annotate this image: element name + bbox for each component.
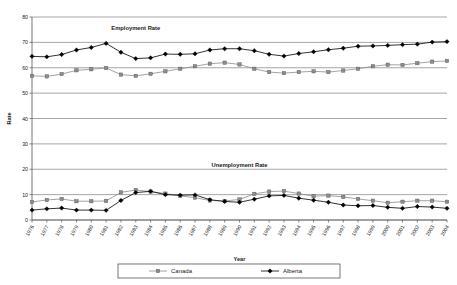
data-point-canada-1992 xyxy=(267,190,270,193)
y-axis-title: Rate xyxy=(6,112,12,124)
data-point-alberta-1983 xyxy=(134,56,138,60)
data-point-alberta-1998 xyxy=(356,204,360,208)
data-point-canada-2004 xyxy=(445,59,448,62)
data-point-alberta-1978 xyxy=(59,52,63,56)
data-point-alberta-1985 xyxy=(163,52,167,56)
y-tick-label-80: 80 xyxy=(22,14,28,20)
data-point-alberta-2001 xyxy=(400,42,404,46)
data-point-alberta-1996 xyxy=(326,200,330,204)
data-point-alberta-2004 xyxy=(445,206,449,210)
data-point-alberta-1980 xyxy=(89,208,93,212)
x-tick-label-1999: 1999 xyxy=(365,224,376,237)
data-point-canada-1993 xyxy=(282,71,285,74)
data-point-alberta-1984 xyxy=(148,56,152,60)
annotation-employment-rate: Employment Rate xyxy=(111,25,161,31)
data-point-canada-1977 xyxy=(45,75,48,78)
data-point-alberta-2000 xyxy=(386,43,390,47)
data-point-alberta-2002 xyxy=(415,204,419,208)
data-point-canada-1996 xyxy=(327,194,330,197)
x-tick-label-2000: 2000 xyxy=(380,224,391,237)
data-point-alberta-1999 xyxy=(371,203,375,207)
y-tick-label-70: 70 xyxy=(22,39,28,45)
data-point-alberta-2003 xyxy=(430,205,434,209)
data-point-alberta-2003 xyxy=(430,40,434,44)
data-point-canada-1986 xyxy=(179,67,182,70)
data-point-alberta-1979 xyxy=(74,48,78,52)
x-tick-label-1984: 1984 xyxy=(143,224,154,237)
data-point-canada-1988 xyxy=(208,62,211,65)
data-point-canada-2001 xyxy=(401,200,404,203)
y-tick-label-10: 10 xyxy=(22,192,28,198)
x-tick-label-2001: 2001 xyxy=(395,224,406,237)
data-point-alberta-1976 xyxy=(30,54,34,58)
legend-marker-canada xyxy=(156,269,159,272)
x-tick-label-1987: 1987 xyxy=(187,224,198,237)
data-point-canada-1980 xyxy=(90,200,93,203)
data-point-alberta-1982 xyxy=(119,198,123,202)
legend-label-alberta: Alberta xyxy=(283,268,303,274)
x-tick-label-1989: 1989 xyxy=(217,224,228,237)
x-tick-label-1976: 1976 xyxy=(24,224,35,237)
data-point-canada-1981 xyxy=(104,199,107,202)
data-point-alberta-1989 xyxy=(222,47,226,51)
data-point-canada-1994 xyxy=(297,70,300,73)
y-tick-label-20: 20 xyxy=(22,166,28,172)
x-tick-label-1988: 1988 xyxy=(202,224,213,237)
x-tick-label-1995: 1995 xyxy=(306,224,317,237)
employment-unemployment-rate-chart: 0102030405060708019761977197819791980198… xyxy=(0,0,457,285)
data-point-alberta-1995 xyxy=(311,50,315,54)
x-tick-label-1990: 1990 xyxy=(232,224,243,237)
data-point-alberta-1995 xyxy=(311,198,315,202)
x-tick-label-1997: 1997 xyxy=(335,224,346,237)
data-point-canada-1998 xyxy=(356,197,359,200)
x-tick-label-1994: 1994 xyxy=(291,224,302,237)
data-point-alberta-1999 xyxy=(371,44,375,48)
data-point-alberta-1977 xyxy=(45,55,49,59)
data-point-alberta-1982 xyxy=(119,50,123,54)
x-tick-label-2003: 2003 xyxy=(424,224,435,237)
data-point-alberta-1998 xyxy=(356,44,360,48)
y-tick-label-50: 50 xyxy=(22,90,28,96)
data-point-canada-1997 xyxy=(342,195,345,198)
data-point-alberta-1977 xyxy=(45,207,49,211)
data-point-canada-1989 xyxy=(223,61,226,64)
data-point-alberta-1996 xyxy=(326,48,330,52)
chart-canvas: 0102030405060708019761977197819791980198… xyxy=(0,0,457,285)
data-point-canada-1990 xyxy=(238,63,241,66)
x-tick-label-2002: 2002 xyxy=(409,224,420,237)
data-point-canada-1984 xyxy=(149,72,152,75)
data-point-canada-1983 xyxy=(134,74,137,77)
data-point-alberta-1997 xyxy=(341,46,345,50)
x-tick-label-1983: 1983 xyxy=(128,224,139,237)
data-point-alberta-2000 xyxy=(386,205,390,209)
x-tick-label-1996: 1996 xyxy=(321,224,332,237)
y-tick-label-30: 30 xyxy=(22,141,28,147)
data-point-canada-1991 xyxy=(253,192,256,195)
data-point-canada-1995 xyxy=(312,70,315,73)
x-tick-label-1992: 1992 xyxy=(261,224,272,237)
data-point-canada-1991 xyxy=(253,67,256,70)
y-tick-label-40: 40 xyxy=(22,116,28,122)
data-point-canada-1999 xyxy=(371,65,374,68)
data-point-canada-2002 xyxy=(416,199,419,202)
x-tick-label-1982: 1982 xyxy=(113,224,124,237)
data-point-canada-1978 xyxy=(60,72,63,75)
data-point-canada-1997 xyxy=(342,69,345,72)
data-point-alberta-1987 xyxy=(193,52,197,56)
y-tick-label-0: 0 xyxy=(25,217,28,223)
data-point-canada-1994 xyxy=(297,192,300,195)
data-point-alberta-1991 xyxy=(252,49,256,53)
data-point-canada-2002 xyxy=(416,61,419,64)
data-point-alberta-1993 xyxy=(282,54,286,58)
x-tick-label-1980: 1980 xyxy=(83,224,94,237)
annotation-unemployment-rate: Unemployment Rate xyxy=(211,162,268,168)
data-point-canada-2000 xyxy=(386,63,389,66)
data-point-canada-1998 xyxy=(356,67,359,70)
x-axis-title: Year xyxy=(234,256,247,262)
data-point-alberta-1981 xyxy=(104,208,108,212)
data-point-canada-2001 xyxy=(401,63,404,66)
x-tick-label-1998: 1998 xyxy=(350,224,361,237)
x-tick-label-1977: 1977 xyxy=(39,224,50,237)
data-point-alberta-1986 xyxy=(178,52,182,56)
data-point-alberta-1988 xyxy=(208,48,212,52)
